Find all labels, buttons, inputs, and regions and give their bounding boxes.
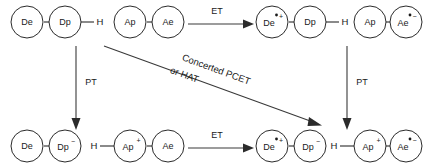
node-label-ap3: Ap <box>122 142 133 152</box>
node-label-ae: Ae <box>162 17 173 27</box>
h-label-right: H <box>97 16 104 27</box>
charge-label-ae2: − <box>412 13 416 20</box>
radical-dot-icon <box>275 14 278 17</box>
node-label-ae3: Ae <box>162 141 173 151</box>
node-label-ap2: Ap <box>364 17 375 27</box>
arrow-pt-right-label: PT <box>356 77 368 87</box>
node-label-de4: De <box>263 142 275 152</box>
h-label-left-bottom-mid: H <box>91 140 98 151</box>
radical-dot-icon-4 <box>409 138 412 141</box>
node-label-de: De <box>21 17 33 27</box>
h-label-right2: H <box>342 16 349 27</box>
charge-label-ap4: + <box>376 137 380 144</box>
arrow-et-bottom-label: ET <box>211 130 223 140</box>
node-label-de3: De <box>21 141 33 151</box>
node-label-dp: Dp <box>59 17 71 27</box>
charge-label-de2: + <box>279 13 283 20</box>
charge-label-ae4: − <box>412 137 416 144</box>
charge-label-ap3: + <box>136 137 140 144</box>
node-label-ap4: Ap <box>362 142 373 152</box>
node-label-ae2: Ae <box>397 18 408 28</box>
charge-label-dp4: − <box>316 138 320 145</box>
node-label-dp2: Dp <box>304 17 316 27</box>
h-label-left-bottom-right: H <box>331 140 338 151</box>
pcet-square-scheme-diagram: De Dp H Ap Ae ET De + Dp H Ap Ae − <box>0 0 423 168</box>
node-label-dp4: Dp <box>302 142 314 152</box>
arrow-et-top-label: ET <box>211 6 223 16</box>
charge-label-de4: + <box>279 137 283 144</box>
node-label-de2: De <box>263 18 275 28</box>
charge-label-dp3: − <box>71 138 75 145</box>
radical-dot-icon-3 <box>275 138 278 141</box>
arrow-pt-left-label: PT <box>85 77 97 87</box>
node-label-ap: Ap <box>124 17 135 27</box>
node-label-dp3: Dp <box>57 142 69 152</box>
radical-dot-icon-2 <box>409 14 412 17</box>
node-label-ae4: Ae <box>397 142 408 152</box>
